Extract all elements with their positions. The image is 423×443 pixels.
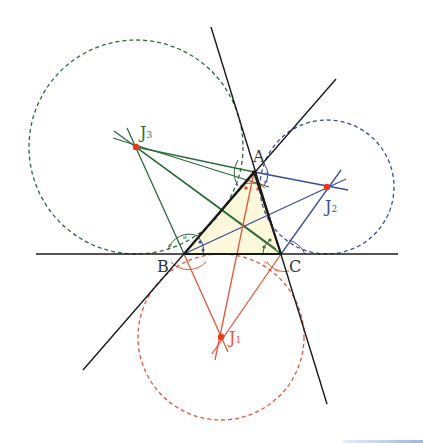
label-a: A bbox=[252, 147, 265, 166]
label-j3: J3 bbox=[138, 123, 152, 142]
svg-text:ø: ø bbox=[183, 233, 187, 241]
svg-text:ø: ø bbox=[264, 177, 268, 185]
excenter-j3-dot bbox=[133, 144, 139, 150]
label-c: C bbox=[289, 257, 301, 276]
label-b: B bbox=[157, 257, 169, 276]
label-j1: J1 bbox=[227, 328, 241, 347]
excircle-diagram: ø ø ø ø o o A B C J3 J2 J1 bbox=[0, 0, 423, 443]
vertex-a-dot bbox=[252, 170, 256, 174]
svg-text:ø: ø bbox=[168, 241, 172, 249]
label-j2: J2 bbox=[323, 197, 337, 216]
svg-text:o: o bbox=[264, 258, 268, 266]
excenter-j1-dot bbox=[218, 334, 224, 340]
svg-text:o: o bbox=[275, 266, 279, 274]
svg-text:ø: ø bbox=[265, 169, 269, 177]
excenter-j2-dot bbox=[324, 184, 330, 190]
